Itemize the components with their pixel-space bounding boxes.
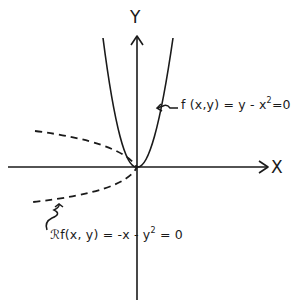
reflection-diagram: Y X f (x,y) = y - x2=0 ℛf(x, y) = -x - y… <box>0 0 291 306</box>
reflected-equation-suffix: = 0 <box>156 227 183 242</box>
diagram-canvas <box>0 0 291 306</box>
parabola-equation: f (x,y) = y - x2=0 <box>181 99 291 112</box>
reflected-equation-prefix: ℛf(x, y) = -x - y <box>50 227 150 242</box>
x-axis-label: X <box>271 159 283 176</box>
parabola-equation-prefix: f (x,y) = y - x <box>181 97 267 112</box>
parabola-curve <box>103 38 173 167</box>
y-axis-label: Y <box>130 9 140 26</box>
parabola-pointer-arrow-icon <box>157 104 178 111</box>
parabola-equation-suffix: =0 <box>272 97 291 112</box>
reflected-equation: ℛf(x, y) = -x - y2 = 0 <box>50 229 183 242</box>
